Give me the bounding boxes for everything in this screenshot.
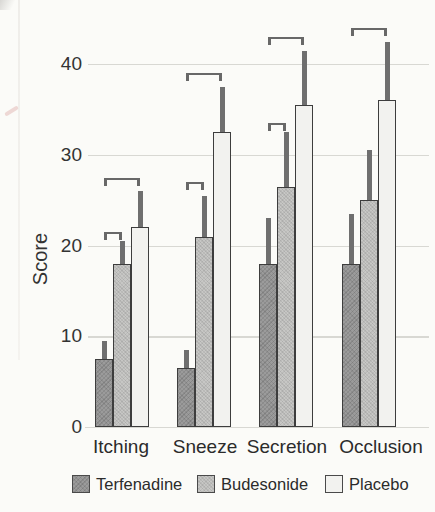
bar-placebo-occlusion	[378, 100, 396, 427]
bar-terfenadine-itching	[95, 359, 113, 427]
category-label-sneeze: Sneeze	[173, 436, 237, 458]
bar-placebo-itching	[131, 227, 149, 427]
bracket-end-tick	[137, 180, 140, 186]
y-tick-label: 30	[38, 144, 82, 166]
bracket-end-tick	[268, 39, 271, 45]
bracket-end-tick	[104, 180, 107, 186]
bracket-end-tick	[384, 30, 387, 36]
error-bar-budesonide-secretion	[284, 132, 289, 194]
bracket-end-tick	[301, 39, 304, 45]
bracket-end-tick	[351, 30, 354, 36]
bar-budesonide-occlusion	[360, 200, 378, 427]
scan-artifact-corner	[0, 0, 18, 10]
scan-artifact-mark	[4, 105, 19, 116]
y-axis-label: Score	[28, 214, 52, 304]
y-tick-label: 0	[38, 416, 82, 438]
gridline	[88, 64, 429, 65]
bracket-end-tick	[201, 184, 204, 190]
legend-swatch-placebo	[325, 475, 343, 493]
legend-item-placebo: Placebo	[325, 474, 409, 494]
error-bar-placebo-occlusion	[385, 42, 390, 109]
y-tick-label: 10	[38, 325, 82, 347]
bar-placebo-sneeze	[213, 132, 231, 427]
bracket-end-tick	[219, 75, 222, 81]
bracket-end-tick	[186, 184, 189, 190]
bracket-end-tick	[119, 234, 122, 240]
significance-bracket	[186, 182, 204, 191]
legend-swatch-budesonide	[197, 475, 215, 493]
bar-terfenadine-occlusion	[342, 264, 360, 427]
category-label-occlusion: Occlusion	[339, 436, 422, 458]
y-tick-label: 40	[38, 53, 82, 75]
significance-bracket	[351, 28, 387, 37]
category-label-secretion: Secretion	[247, 436, 327, 458]
bracket-end-tick	[186, 75, 189, 81]
bracket-end-tick	[104, 234, 107, 240]
bar-terfenadine-secretion	[259, 264, 277, 427]
bar-terfenadine-sneeze	[177, 368, 195, 427]
bracket-end-tick	[283, 125, 286, 131]
bar-budesonide-sneeze	[195, 237, 213, 427]
legend-label-terfenadine: Terfenadine	[96, 475, 182, 494]
legend-item-terfenadine: Terfenadine	[72, 474, 182, 494]
significance-bracket	[104, 178, 140, 187]
legend-label-budesonide: Budesonide	[221, 475, 308, 494]
bar-placebo-secretion	[295, 105, 313, 427]
bar-budesonide-secretion	[277, 187, 295, 427]
x-axis-baseline	[85, 427, 429, 428]
legend-item-budesonide: Budesonide	[197, 474, 308, 494]
significance-bracket	[268, 123, 286, 132]
legend-label-placebo: Placebo	[349, 475, 409, 494]
category-label-itching: Itching	[93, 436, 149, 458]
significance-bracket	[268, 37, 304, 46]
scan-artifact-line	[18, 0, 20, 360]
bar-budesonide-itching	[113, 264, 131, 427]
error-bar-placebo-secretion	[302, 51, 307, 113]
significance-bracket	[186, 73, 222, 82]
y-tick-label: 20	[38, 235, 82, 257]
bracket-end-tick	[268, 125, 271, 131]
significance-bracket	[104, 232, 122, 241]
legend-swatch-terfenadine	[72, 475, 90, 493]
